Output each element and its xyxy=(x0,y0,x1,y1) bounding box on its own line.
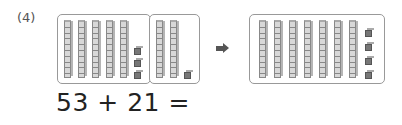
ten-rod xyxy=(259,20,266,78)
one-cube xyxy=(365,44,372,51)
ten-rod xyxy=(274,20,281,78)
ten-rod xyxy=(349,20,356,78)
ten-rod xyxy=(120,20,127,78)
ten-rod xyxy=(304,20,311,78)
equation: 53 + 21 = xyxy=(56,88,190,117)
one-cube xyxy=(134,60,141,67)
problem-number: (4) xyxy=(17,10,35,25)
one-cube xyxy=(365,30,372,37)
ten-rod xyxy=(319,20,326,78)
ten-rod xyxy=(78,20,85,78)
one-cube xyxy=(184,72,191,79)
one-cube xyxy=(134,72,141,79)
ten-rod xyxy=(170,20,177,78)
one-cube xyxy=(365,72,372,79)
ten-rod xyxy=(289,20,296,78)
one-cube xyxy=(134,48,141,55)
ten-rod xyxy=(156,20,163,78)
one-cube xyxy=(365,58,372,65)
ten-rod xyxy=(92,20,99,78)
ten-rod xyxy=(106,20,113,78)
ten-rod xyxy=(334,20,341,78)
ten-rod xyxy=(64,20,71,78)
